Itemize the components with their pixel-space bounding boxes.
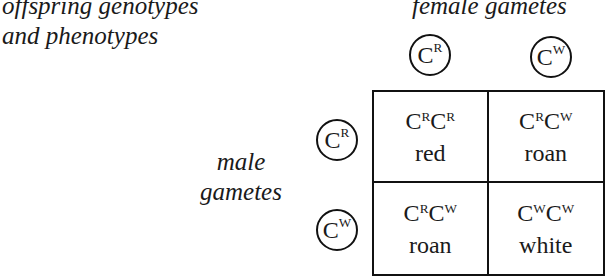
allele-base: C	[323, 217, 339, 244]
diagram-title: offspring genotypes and phenotypes	[2, 0, 199, 51]
allele-base: C	[418, 42, 434, 69]
genotype: CRCW	[404, 197, 457, 229]
title-line-2: and phenotypes	[2, 21, 199, 51]
allele-base: C	[325, 127, 341, 154]
title-line-1: offspring genotypes	[2, 0, 199, 21]
cell-r0-c1: CRCW roan	[489, 92, 604, 183]
male-allele-cw: CW	[316, 209, 358, 251]
phenotype: roan	[524, 137, 567, 169]
phenotype: roan	[409, 229, 452, 261]
cell-r0-c0: CRCR red	[374, 92, 489, 183]
female-allele-cr: CR	[409, 34, 451, 76]
male-label-line-2: gametes	[200, 177, 282, 207]
female-gametes-label: female gametes	[412, 0, 567, 21]
genotype: CWCW	[517, 197, 574, 229]
phenotype: white	[519, 229, 572, 261]
phenotype: red	[415, 137, 446, 169]
male-label-line-1: male	[200, 147, 282, 177]
genotype: CRCR	[405, 105, 455, 137]
allele-base: C	[537, 44, 553, 71]
cell-r1-c0: CRCW roan	[374, 183, 489, 274]
male-gametes-label: male gametes	[200, 147, 282, 207]
male-allele-cr: CR	[316, 119, 358, 161]
female-allele-cw: CW	[530, 36, 572, 78]
cell-r1-c1: CWCW white	[489, 183, 604, 274]
punnett-square: CRCR red CRCW roan CRCW roan CWCW white	[372, 90, 605, 276]
genotype: CRCW	[519, 105, 572, 137]
